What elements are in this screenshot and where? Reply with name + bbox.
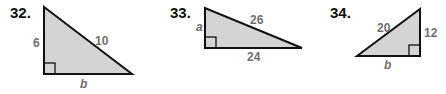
right-triangles-diagram: 32. 6 10 b 33. a 26 24 34. 20 12 b <box>0 0 446 94</box>
leg-horizontal-label: b <box>80 77 87 91</box>
leg-horizontal-label: b <box>384 58 391 72</box>
hypotenuse-label: 10 <box>95 34 109 48</box>
triangle <box>44 7 132 74</box>
problem-number: 33. <box>170 4 191 21</box>
leg-vertical-label: 6 <box>33 36 40 50</box>
leg-horizontal-label: 24 <box>247 50 261 64</box>
problem-34: 34. 20 12 b <box>330 4 438 72</box>
problem-32: 32. 6 10 b <box>10 4 132 91</box>
hypotenuse-label: 20 <box>377 21 391 35</box>
problem-number: 34. <box>330 4 351 21</box>
problem-number: 32. <box>10 4 31 21</box>
problem-33: 33. a 26 24 <box>170 4 302 64</box>
hypotenuse-label: 26 <box>250 13 264 27</box>
leg-vertical-label: 12 <box>424 26 438 40</box>
leg-vertical-label: a <box>196 20 203 34</box>
